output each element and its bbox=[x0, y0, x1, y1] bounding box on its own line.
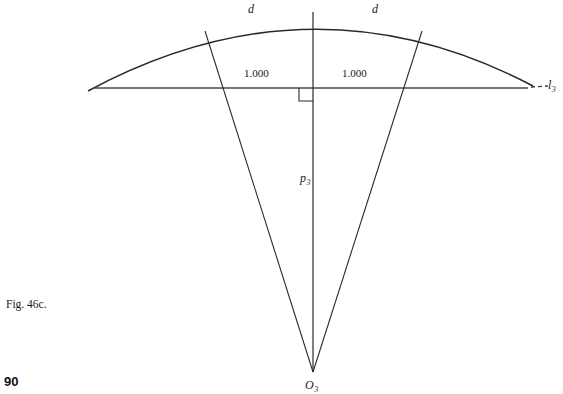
point-label-o3-base: O bbox=[305, 378, 314, 392]
page-number: 90 bbox=[4, 375, 18, 388]
line-label-l3: l3 bbox=[548, 79, 556, 91]
right-angle-marker bbox=[299, 88, 313, 101]
figure-caption: Fig. 46c. bbox=[6, 299, 47, 311]
geometry-diagram bbox=[0, 0, 563, 394]
figure-page: d d 1.000 1.000 l3 p3 O3 Fig. 46c. 90 bbox=[0, 0, 563, 394]
radius-line-right bbox=[313, 31, 422, 372]
point-label-o3-subscript: 3 bbox=[314, 385, 319, 394]
point-label-p3-subscript: 3 bbox=[306, 178, 311, 187]
line-label-l3-subscript: 3 bbox=[551, 85, 556, 94]
arc-label-d-left: d bbox=[248, 3, 254, 15]
measure-label-right: 1.000 bbox=[342, 68, 367, 79]
chord-dashed-extension bbox=[531, 86, 548, 87]
radius-line-left bbox=[205, 31, 313, 372]
measure-label-left: 1.000 bbox=[244, 68, 269, 79]
point-label-o3: O3 bbox=[305, 379, 318, 391]
point-label-p3: p3 bbox=[300, 172, 311, 184]
arc-curve bbox=[88, 29, 533, 91]
arc-label-d-right: d bbox=[372, 3, 378, 15]
